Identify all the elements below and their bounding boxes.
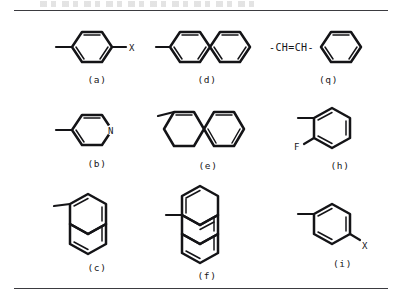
caption-i: (i) [290,258,395,269]
structure-h-drawing: F [290,100,390,158]
structure-e [148,100,268,158]
atom-label-x: X [129,43,135,53]
caption-f: (f) [152,270,262,281]
atom-label-f: F [294,142,299,152]
structure-i-drawing: X [290,196,395,256]
structure-c-drawing [42,190,152,262]
bottom-rule [14,288,388,289]
structure-a-drawing: X [42,22,152,72]
structure-b-drawing: N [42,104,152,156]
structure-h: F [290,100,390,158]
caption-e: (e) [148,160,268,171]
atom-label-x: X [362,241,368,251]
page-header-strip [40,1,260,7]
caption-c: (c) [42,262,152,273]
caption-d: (d) [152,74,262,85]
structure-g-drawing: -CH=CH- [266,22,391,72]
top-rule [14,10,388,11]
structure-d-drawing [152,22,262,72]
structure-g: -CH=CH- [266,22,391,72]
caption-a: (a) [42,74,152,85]
structure-e-drawing [148,100,268,158]
structure-f-drawing [152,182,262,272]
caption-g: (q) [266,74,391,85]
structure-a: X [42,22,152,72]
caption-h: (h) [290,160,390,171]
structure-b: N [42,104,152,156]
figure-sheet: X (a) (d) -CH=CH- (q) [0,0,402,300]
structure-c [42,190,152,262]
caption-b: (b) [42,158,152,169]
structure-d [152,22,262,72]
structure-f [152,182,262,272]
structure-i: X [290,196,395,256]
chain-label-ch-ch: -CH=CH- [269,42,314,53]
atom-label-n: N [108,126,113,136]
